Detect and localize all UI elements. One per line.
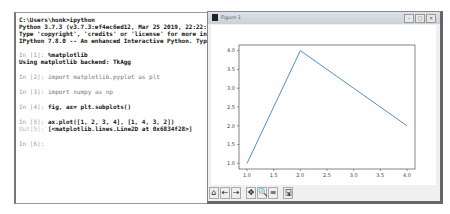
zoom-icon[interactable]: 🔍 <box>257 187 267 199</box>
plot-canvas[interactable]: 1.01.52.02.53.03.54.0 1.01.52.02.53.03.5… <box>211 25 436 185</box>
y-tick-label: 3.0 <box>227 85 235 91</box>
terminal-input-5: In [5]: ax.plot([1, 2, 3, 4], [1, 4, 3, … <box>19 118 174 125</box>
axes-frame <box>239 45 415 169</box>
terminal-input-6[interactable]: In [6]: <box>19 140 44 147</box>
x-tick-label: 3.5 <box>376 172 384 178</box>
terminal-line: Python 3.7.3 (v3.7.3:ef4ec6ed12, Mar 25 … <box>19 23 218 30</box>
prompt: In [2]: <box>19 73 44 80</box>
command: import matplotlib.pyplot as plt <box>48 73 160 80</box>
terminal-line: C:\Users\honk>ipython <box>19 16 95 23</box>
prompt: In [6]: <box>19 140 44 147</box>
tk-app-icon <box>212 14 218 21</box>
command: import numpy as np <box>48 88 113 95</box>
terminal-output-5: Out[5]: [<matplotlib.lines.Line2D at 0x6… <box>19 125 192 132</box>
y-tick-label: 1.5 <box>227 141 235 147</box>
command: %matplotlib <box>48 51 88 58</box>
x-tick-label: 2.0 <box>296 172 304 178</box>
y-tick-label: 2.5 <box>227 104 235 110</box>
terminal-output: Using matplotlib backend: TkAgg <box>19 58 131 65</box>
terminal-input-2: In [2]: import matplotlib.pyplot as plt <box>19 73 160 80</box>
terminal-input-4: In [4]: fig, ax= plt.subplots() <box>19 103 131 110</box>
x-tick-label: 4.0 <box>403 172 411 178</box>
figure-window[interactable]: Figure 1 – □ ✕ 1.01.52.02.53.03.54.0 1.0… <box>207 11 443 204</box>
x-tick-label: 3.0 <box>350 172 358 178</box>
ipython-terminal[interactable]: C:\Users\honk>ipython Python 3.7.3 (v3.7… <box>14 12 226 204</box>
terminal-input-1: In [1]: %matplotlib <box>19 51 88 58</box>
y-tick-label: 4.0 <box>227 47 235 53</box>
figure-titlebar[interactable]: Figure 1 – □ ✕ <box>208 12 440 24</box>
y-axis-ticks: 1.01.52.02.53.03.54.0 <box>227 47 239 166</box>
line-chart: 1.01.52.02.53.03.54.0 1.01.52.02.53.03.5… <box>211 25 436 185</box>
window-title: Figure 1 <box>221 14 241 20</box>
x-tick-label: 1.5 <box>270 172 278 178</box>
forward-icon[interactable]: → <box>231 187 241 199</box>
prompt: In [5]: <box>19 118 44 125</box>
output: [<matplotlib.lines.Line2D at 0x6834f28>] <box>48 125 193 132</box>
close-button[interactable]: ✕ <box>426 14 436 23</box>
maximize-button[interactable]: □ <box>415 14 425 23</box>
y-tick-label: 3.5 <box>227 66 235 72</box>
back-icon[interactable]: ← <box>220 187 230 199</box>
minimize-button[interactable]: – <box>404 14 414 23</box>
navigation-toolbar: ⌂ ← → ✥ 🔍 ≡ 🖫 <box>209 186 293 200</box>
command: fig, ax= plt.subplots() <box>48 103 131 110</box>
pan-icon[interactable]: ✥ <box>246 187 256 199</box>
subplots-icon[interactable]: ≡ <box>268 187 278 199</box>
command: ax.plot([1, 2, 3, 4], [1, 4, 3, 2]) <box>48 118 174 125</box>
y-tick-label: 2.0 <box>227 123 235 129</box>
home-icon[interactable]: ⌂ <box>209 187 219 199</box>
x-axis-ticks: 1.01.52.02.53.03.54.0 <box>243 169 411 178</box>
prompt: In [3]: <box>19 88 44 95</box>
prompt: Out[5]: <box>19 125 44 132</box>
prompt: In [4]: <box>19 103 44 110</box>
x-tick-label: 1.0 <box>243 172 251 178</box>
x-tick-label: 2.5 <box>323 172 331 178</box>
save-icon[interactable]: 🖫 <box>283 187 293 199</box>
prompt: In [1]: <box>19 51 44 58</box>
y-tick-label: 1.0 <box>227 160 235 166</box>
terminal-input-3: In [3]: import numpy as np <box>19 88 113 95</box>
